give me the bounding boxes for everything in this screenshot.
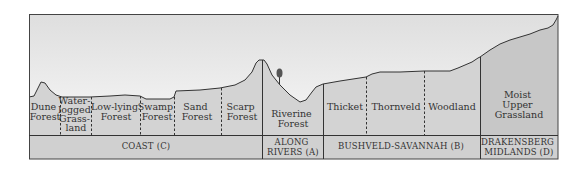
veg-label-thornveld: Thornveld — [372, 101, 421, 112]
vegetation-profile-diagram: Dune Forest Water- logged Grass- land Lo… — [0, 0, 581, 172]
zone-label-drakensberg: DRAKENSBERG MIDLANDS (D) — [481, 137, 557, 157]
zone-label-bushveld: BUSHVELD-SAVANNAH (B) — [338, 141, 464, 151]
veg-label-scarp-forest: Scarp Forest — [226, 101, 257, 122]
veg-label-riverine-forest: Riverine Forest — [271, 108, 315, 129]
zone-label-rivers: ALONG RIVERS (A) — [267, 137, 319, 157]
veg-label-sand-forest: Sand Forest — [182, 101, 213, 122]
zone-label-coast: COAST (C) — [122, 141, 171, 151]
veg-label-swamp-forest: Swamp Forest — [138, 101, 176, 122]
veg-label-thicket: Thicket — [327, 101, 363, 112]
veg-label-dune-forest: Dune Forest — [30, 101, 61, 122]
veg-label-woodland: Woodland — [428, 101, 476, 112]
